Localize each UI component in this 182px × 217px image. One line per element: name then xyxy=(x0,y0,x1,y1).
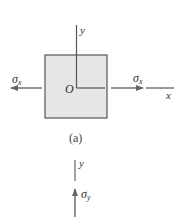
origin-label: O xyxy=(65,82,74,96)
y-axis-label: y xyxy=(79,24,85,36)
y-stress-label: σy xyxy=(81,187,91,202)
figure-b: y σy xyxy=(75,157,91,217)
right-stress-label: σx xyxy=(133,71,143,86)
figure-a: y O x σx σx (a) xyxy=(11,24,174,145)
left-stress-label: σx xyxy=(12,72,22,87)
x-axis-label: x xyxy=(165,89,171,101)
y-axis-label-b: y xyxy=(78,157,84,169)
figure-caption: (a) xyxy=(69,131,82,145)
stress-diagram: y O x σx σx (a) y σy xyxy=(0,0,182,217)
